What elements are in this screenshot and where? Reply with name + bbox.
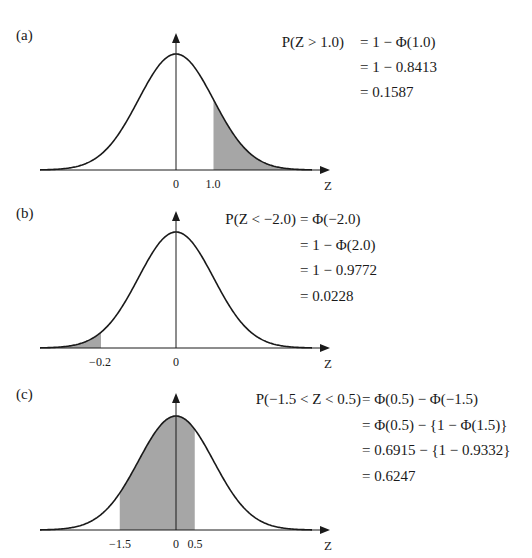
panel-c-equation-line-4: = 0.6247	[362, 469, 415, 484]
panel-a-equation-lhs: P(Z > 1.0)	[282, 35, 344, 50]
panel-c-equation-line-1: = Φ(0.5) − Φ(−1.5)	[362, 392, 478, 407]
panel-c-x-axis-arrow-icon	[320, 526, 330, 534]
panel-c-equation-line-2: = Φ(0.5) − {1 − Φ(1.5)}	[362, 418, 507, 433]
panel-b-equation-line-1: = Φ(−2.0)	[300, 212, 360, 227]
panel-b-equation-line-4: = 0.0228	[300, 289, 353, 304]
panel-a-equation-line-1: = 1 − Φ(1.0)	[360, 35, 435, 50]
panel-b-tick-1: 0	[173, 356, 179, 368]
panel-c-tick-0: −1.5	[109, 538, 131, 550]
panel-c-equation-line-3: = 0.6915 − {1 − 0.9332}	[362, 443, 511, 458]
normal-curves-figure	[0, 0, 532, 558]
panel-a-axis-label: Z	[324, 179, 332, 192]
panel-b-equation-lhs: P(Z < −2.0)	[225, 212, 296, 227]
panel-a-tick-0: 0	[173, 178, 179, 190]
panel-b-equation-line-3: = 1 − 0.9772	[300, 263, 377, 278]
panel-b-tick-0: −0.2	[89, 356, 111, 368]
panel-a-x-axis-arrow-icon	[320, 166, 330, 174]
panel-a-equation-line-2: = 1 − 0.8413	[360, 60, 437, 75]
panel-c-equation-lhs: P(−1.5 < Z < 0.5)	[256, 392, 361, 407]
panel-b-y-axis-arrow-icon	[172, 211, 180, 221]
panel-c-label: (c)	[16, 387, 33, 402]
panel-a-label: (a)	[16, 28, 33, 43]
panel-c-plot	[40, 393, 330, 534]
panel-c-tick-1: 0	[173, 538, 179, 550]
panel-a-shaded-area	[214, 100, 313, 170]
panel-a-equation-line-3: = 0.1587	[360, 85, 413, 100]
panel-a-tick-1: 1.0	[206, 178, 221, 190]
panel-c-y-axis-arrow-icon	[172, 393, 180, 403]
panel-b-equation-line-2: = 1 − Φ(2.0)	[300, 238, 375, 253]
panel-a-plot	[40, 33, 330, 174]
panel-c-axis-label: Z	[324, 539, 332, 552]
panel-c-tick-2: 0.5	[188, 538, 203, 550]
panel-b-plot	[40, 211, 330, 352]
panel-b-label: (b)	[16, 206, 34, 221]
panel-a-y-axis-arrow-icon	[172, 33, 180, 43]
panel-b-x-axis-arrow-icon	[320, 344, 330, 352]
panel-b-axis-label: Z	[324, 357, 332, 370]
